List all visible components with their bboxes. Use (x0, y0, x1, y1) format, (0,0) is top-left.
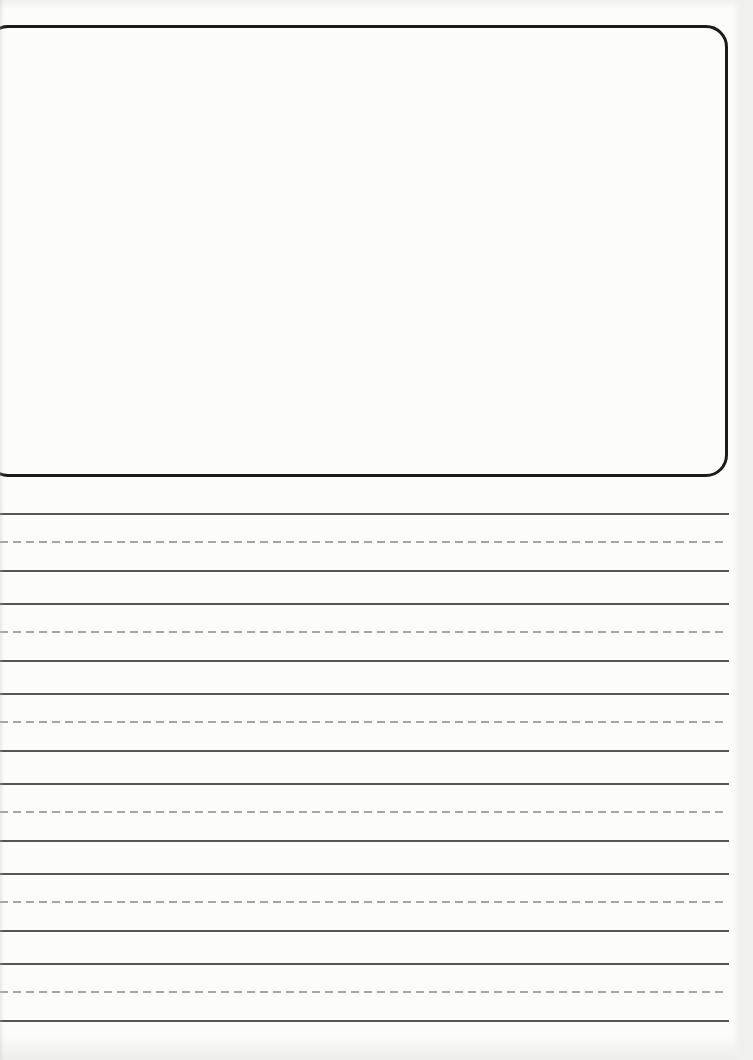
writing-line-top (0, 693, 729, 695)
writing-row (0, 603, 729, 693)
writing-line-middle-dashed (0, 811, 726, 813)
drawing-box (0, 25, 728, 477)
writing-line-bottom (0, 750, 729, 752)
scan-edge-right (732, 0, 753, 1060)
writing-row (0, 963, 729, 1053)
writing-line-top (0, 783, 729, 785)
writing-row (0, 873, 729, 963)
writing-line-middle-dashed (0, 991, 726, 993)
writing-line-bottom (0, 660, 729, 662)
writing-line-bottom (0, 930, 729, 932)
writing-line-top (0, 873, 729, 875)
writing-line-bottom (0, 840, 729, 842)
writing-line-bottom (0, 1020, 729, 1022)
writing-line-bottom (0, 570, 729, 572)
writing-line-top (0, 513, 729, 515)
writing-line-middle-dashed (0, 901, 726, 903)
writing-row (0, 693, 729, 783)
scan-edge-top (0, 0, 753, 9)
writing-line-top (0, 963, 729, 965)
writing-line-middle-dashed (0, 721, 726, 723)
worksheet-page (0, 0, 753, 1060)
writing-line-middle-dashed (0, 541, 726, 543)
writing-line-middle-dashed (0, 631, 726, 633)
writing-lines-area (0, 513, 729, 1023)
writing-line-top (0, 603, 729, 605)
writing-row (0, 783, 729, 873)
writing-row (0, 513, 729, 603)
